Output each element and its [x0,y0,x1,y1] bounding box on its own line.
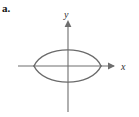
y-axis-arrowhead [65,20,72,27]
figure-container: a. x y [0,0,139,117]
coordinate-plot: x y [0,0,139,117]
x-axis-arrowhead [108,63,115,70]
x-axis-label: x [120,61,126,72]
y-axis-label: y [63,9,69,20]
